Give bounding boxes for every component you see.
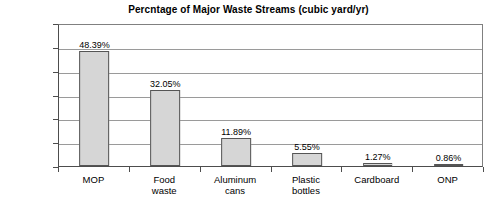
x-axis-category-label-line: MOP — [58, 174, 129, 185]
x-axis-tick — [129, 167, 130, 172]
x-axis-category-label-line: Food — [129, 174, 200, 185]
x-axis-category-label: ONP — [412, 174, 483, 185]
bar-value-label: 1.27% — [365, 152, 391, 162]
x-axis-category-label-line: Aluminum — [200, 174, 271, 185]
bar-slot: 32.05% — [130, 25, 201, 166]
bar[interactable] — [80, 51, 110, 166]
x-axis-tick — [483, 167, 484, 172]
x-axis-category-label-line: Cardboard — [341, 174, 412, 185]
x-axis-category-label-line: waste — [129, 185, 200, 196]
x-axis-category-label: MOP — [58, 174, 129, 185]
x-axis-category-label-line: Plastic — [271, 174, 342, 185]
x-axis-tick — [58, 167, 59, 172]
bar-value-label: 5.55% — [294, 142, 320, 152]
x-axis-tick — [341, 167, 342, 172]
x-axis-category-label: Plasticbottles — [271, 174, 342, 196]
x-axis-category-label: Cardboard — [341, 174, 412, 185]
x-axis-category-label-line: cans — [200, 185, 271, 196]
x-axis-tick — [271, 167, 272, 172]
x-axis-tick — [200, 167, 201, 172]
bar[interactable] — [292, 153, 322, 166]
plot-area: 48.39%32.05%11.89%5.55%1.27%0.86% — [58, 24, 483, 167]
bar-value-label: 0.86% — [436, 153, 462, 163]
bar-slot: 48.39% — [59, 25, 130, 166]
bar-value-label: 32.05% — [150, 79, 181, 89]
bar-value-label: 48.39% — [79, 40, 110, 50]
bar[interactable] — [363, 163, 393, 166]
bar-slot: 1.27% — [342, 25, 413, 166]
bar-slot: 0.86% — [413, 25, 484, 166]
bar[interactable] — [150, 90, 180, 166]
bar-chart: Percntage of Major Waste Streams (cubic … — [0, 0, 497, 205]
bar[interactable] — [221, 138, 251, 166]
x-axis-category-label: Aluminumcans — [200, 174, 271, 196]
bar-slot: 5.55% — [272, 25, 343, 166]
x-axis-category-label-line: bottles — [271, 185, 342, 196]
bar-value-label: 11.89% — [221, 127, 251, 137]
x-axis-category-label-line: ONP — [412, 174, 483, 185]
bar-slot: 11.89% — [201, 25, 272, 166]
x-axis-category-label: Foodwaste — [129, 174, 200, 196]
bar[interactable] — [434, 164, 464, 166]
x-axis-tick — [412, 167, 413, 172]
chart-title: Percntage of Major Waste Streams (cubic … — [0, 4, 497, 15]
